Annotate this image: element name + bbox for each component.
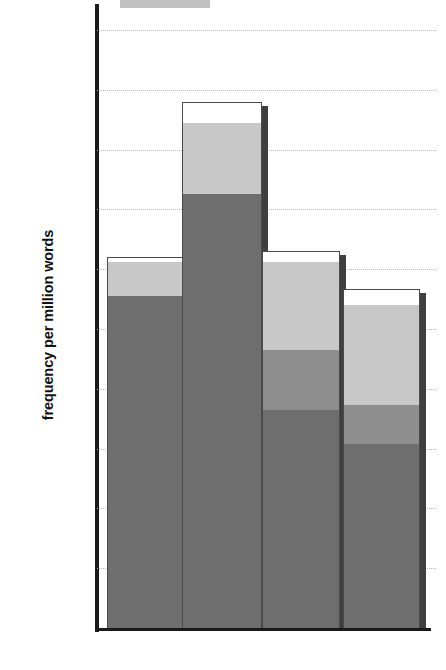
bar-segment-segment-1-dark	[107, 296, 186, 628]
bar-segment-segment-3-light	[107, 262, 186, 296]
gridline	[97, 90, 436, 91]
bar-segment-segment-3-light	[343, 305, 420, 405]
legend-remnant	[120, 0, 210, 8]
bar-segment-segment-3-light	[182, 123, 262, 195]
bar-segment-segment-2-medium	[343, 405, 420, 444]
bar-acad	[343, 289, 420, 628]
plot-area: 0200040006000800010000120001400016000180…	[97, 30, 436, 628]
bar-segment-segment-2-medium	[262, 350, 340, 410]
bar-segment-segment-3-light	[262, 262, 340, 350]
bar-fict	[182, 102, 262, 628]
x-axis-line	[95, 628, 431, 631]
bar-segment-segment-1-dark	[262, 410, 340, 628]
bar-segment-segment-4-white	[262, 251, 340, 261]
gridline	[97, 30, 436, 31]
bar-chart: frequency per million words 020004000600…	[0, 0, 446, 670]
bar-segment-segment-4-white	[343, 289, 420, 305]
y-axis-title: frequency per million words	[40, 185, 56, 465]
bar-news	[262, 251, 340, 628]
bar-segment-segment-4-white	[182, 102, 262, 123]
bar-segment-segment-1-dark	[182, 194, 262, 628]
bar-conv	[107, 257, 186, 628]
bar-segment-segment-1-dark	[343, 444, 420, 628]
bar-segment-segment-4-white	[107, 257, 186, 261]
